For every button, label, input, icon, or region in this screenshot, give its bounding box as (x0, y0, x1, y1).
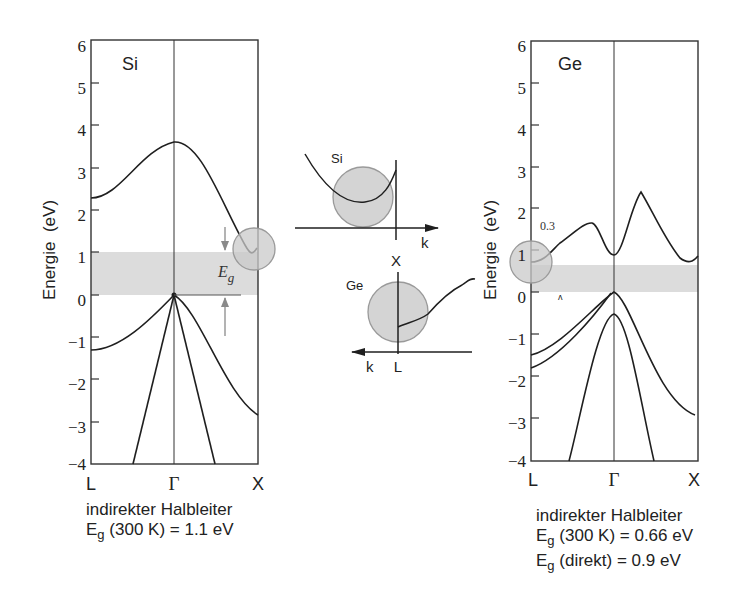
svg-text:5: 5 (78, 79, 87, 98)
ge-title: Ge (558, 54, 582, 74)
inset-ge-k-label: k (366, 358, 374, 375)
inset-ge-L-label: L (394, 358, 402, 375)
svg-text:5: 5 (518, 79, 527, 98)
svg-text:3: 3 (518, 163, 527, 182)
svg-text:1: 1 (78, 248, 87, 267)
svg-text:−2: −2 (68, 375, 86, 394)
si-caption-type: indirekter Halbleiter (86, 500, 234, 520)
si-y-tick-labels: 6 5 4 3 2 1 0 −1 −2 −3 −4 (68, 37, 87, 474)
ge-minimum-highlight-circle (510, 241, 552, 283)
si-kpoint-X: X (252, 474, 264, 494)
ge-y-axis-label: Energie (eV) (481, 200, 500, 300)
svg-text:1: 1 (518, 246, 527, 265)
ge-panel: ʌ 0.3 Ge 6 5 4 3 2 1 0 −1 −2 −3 −4 Energ… (481, 37, 700, 490)
inset-si-label: Si (331, 151, 343, 166)
svg-text:6: 6 (518, 37, 527, 56)
svg-text:−4: −4 (68, 455, 87, 474)
si-kpoint-L: L (86, 474, 96, 494)
ge-kpoint-gamma: Γ (609, 469, 620, 490)
svg-text:4: 4 (518, 121, 527, 140)
ge-caption: indirekter Halbleiter Eg (300 K) = 0.66 … (536, 506, 693, 576)
svg-text:−1: −1 (68, 333, 86, 352)
si-caption: indirekter Halbleiter Eg (300 K) = 1.1 e… (86, 500, 234, 545)
ge-caption-gap-300k: Eg (300 K) = 0.66 eV (536, 526, 693, 551)
svg-text:3: 3 (78, 164, 87, 183)
svg-text:−3: −3 (68, 418, 86, 437)
inset-si-k-label: k (421, 234, 429, 251)
ge-kpoint-X: X (688, 470, 700, 490)
svg-text:−4: −4 (508, 452, 527, 471)
svg-text:−1: −1 (508, 330, 526, 349)
ge-split-off-band (569, 314, 654, 461)
svg-text:4: 4 (78, 121, 87, 140)
ge-caption-gap-direct: Eg (direkt) = 0.9 eV (536, 551, 693, 576)
inset-diagram: Si k X Ge k L (295, 151, 475, 375)
ge-annotation-0.3: 0.3 (540, 219, 555, 233)
si-kpoint-gamma: Γ (169, 473, 180, 494)
svg-text:2: 2 (518, 204, 527, 223)
si-y-axis-label: Energie (eV) (40, 200, 59, 300)
ge-caption-type: indirekter Halbleiter (536, 506, 693, 526)
svg-text:−3: −3 (508, 414, 526, 433)
si-valence-light-left (133, 295, 174, 464)
si-minimum-highlight-circle (233, 228, 275, 270)
svg-text:0: 0 (78, 291, 87, 310)
si-caption-gap: Eg (300 K) = 1.1 eV (86, 520, 234, 545)
svg-text:6: 6 (78, 37, 87, 56)
si-y-ticks (91, 83, 99, 422)
ge-small-mark: ʌ (558, 292, 563, 302)
si-panel: Eg Si 6 5 4 3 2 1 0 −1 −2 −3 −4 Energie … (40, 37, 275, 494)
svg-text:0: 0 (518, 288, 527, 307)
svg-text:−2: −2 (508, 372, 526, 391)
svg-text:2: 2 (78, 206, 87, 225)
ge-y-tick-labels: 6 5 4 3 2 1 0 −1 −2 −3 −4 (508, 37, 527, 471)
inset-si-X-label: X (391, 252, 401, 269)
si-title: Si (122, 54, 138, 74)
inset-ge-label: Ge (346, 278, 363, 293)
ge-kpoint-L: L (528, 470, 538, 490)
